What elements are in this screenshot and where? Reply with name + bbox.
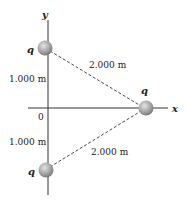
charge-top-label: q [27,44,34,55]
distance-bottom-origin: 1.000 m [9,137,47,147]
x-axis-label: x [171,103,179,114]
distance-bottom-right: 2.000 m [91,147,129,157]
y-axis-label: y [41,9,49,20]
charge-right [139,101,154,116]
charge-bottom-label: q [28,166,35,177]
distance-top-origin: 1.000 m [9,74,47,84]
distance-top-right: 2.000 m [89,60,127,70]
charge-bottom [39,163,54,178]
charge-right-label: q [141,85,148,96]
charge-top [38,41,53,56]
dashed-line-bottom-right [50,111,141,167]
charge-diagram: y x 0 q q q 1.000 m 1.000 m 2.000 m 2.00… [0,0,189,206]
origin-label: 0 [38,112,44,122]
